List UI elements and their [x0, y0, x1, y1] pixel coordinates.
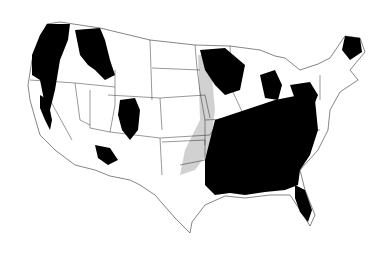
forest-florida [295, 185, 312, 222]
us-forest-map [0, 0, 391, 254]
